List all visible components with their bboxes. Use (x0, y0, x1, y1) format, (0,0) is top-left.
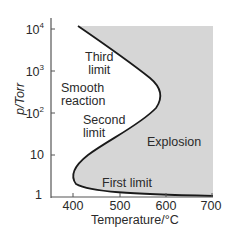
x-axis-label: Temperature/°C (91, 214, 179, 227)
third-limit-label: Thirdlimit (85, 51, 113, 77)
second-limit-label: Secondlimit (83, 114, 125, 140)
x-tick-500: 500 (105, 199, 135, 213)
explosion-label: Explosion (147, 136, 201, 149)
x-tick-400: 400 (58, 199, 88, 213)
smooth-reaction-label: Smoothreaction (61, 82, 105, 108)
y-tick-10e3: 103 (14, 63, 44, 79)
first-limit-label: First limit (102, 177, 152, 190)
y-axis-label: p/Torr (14, 83, 27, 115)
y-tick-10e4: 104 (14, 21, 44, 37)
y-tick-1: 1 (12, 188, 42, 202)
x-tick-700: 700 (196, 199, 226, 213)
y-tick-10: 10 (14, 148, 44, 162)
x-tick-600: 600 (151, 199, 181, 213)
